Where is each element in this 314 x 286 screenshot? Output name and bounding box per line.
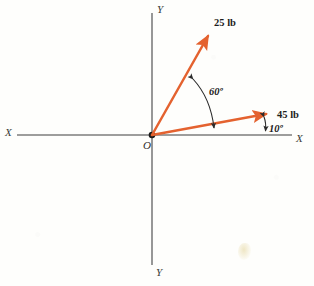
angle-label-10: 10º	[269, 124, 283, 135]
angle-arc-10	[264, 117, 266, 131]
force-label-45lb: 45 lb	[277, 110, 299, 121]
force-vector-diagram: X X Y Y O 25 lb 45 lb 60º 10º	[0, 0, 314, 286]
x-axis-label-right: X	[296, 133, 303, 144]
force-vector-25lb	[152, 36, 208, 135]
diagram-canvas	[0, 0, 314, 286]
force-vector-45lb	[152, 114, 266, 135]
angle-label-60: 60º	[209, 87, 223, 98]
x-axis-label-left: X	[5, 127, 12, 138]
origin-label: O	[143, 140, 151, 151]
y-axis-label-top: Y	[157, 4, 163, 15]
force-label-25lb: 25 lb	[214, 18, 236, 29]
y-axis-label-bottom: Y	[156, 267, 162, 278]
